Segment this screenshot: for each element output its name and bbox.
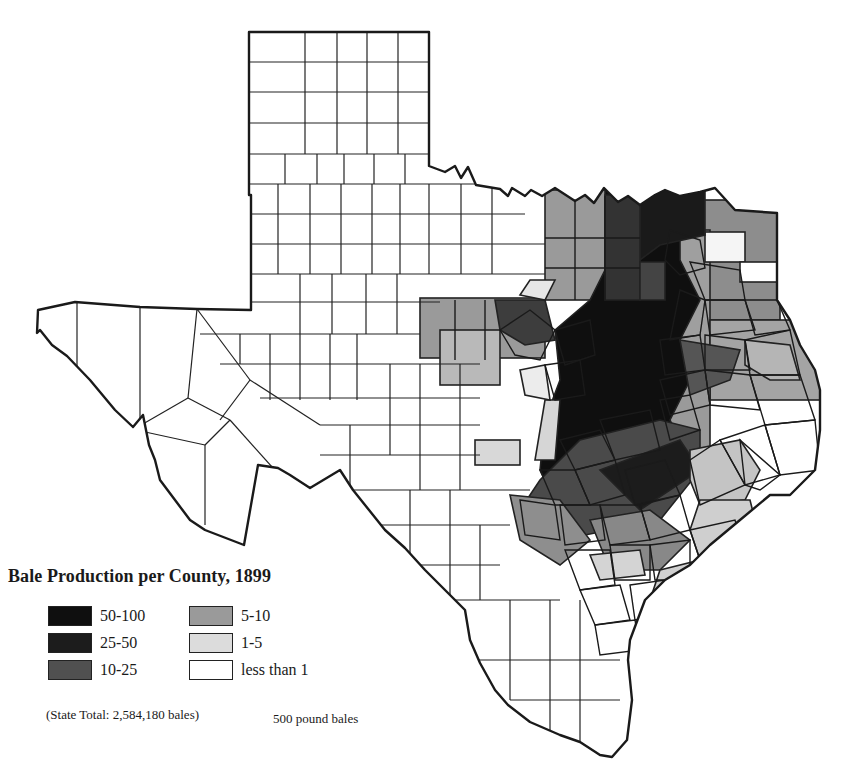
legend: 50-100 25-50 10-25 5-10 1-5 less than 1: [48, 606, 378, 686]
legend-swatch: [189, 660, 233, 680]
legend-label: 25-50: [100, 634, 137, 652]
legend-swatch: [189, 606, 233, 626]
legend-swatch: [189, 633, 233, 653]
legend-item-1-5: 1-5: [189, 633, 262, 653]
legend-label: 5-10: [241, 607, 270, 625]
legend-label: 50-100: [100, 607, 145, 625]
legend-item-10-25: 10-25: [48, 660, 137, 680]
legend-swatch: [48, 633, 92, 653]
unit-note: 500 pound bales: [273, 711, 358, 727]
legend-label: less than 1: [241, 661, 309, 679]
legend-label: 10-25: [100, 661, 137, 679]
legend-swatch: [48, 660, 92, 680]
legend-swatch: [48, 606, 92, 626]
legend-label: 1-5: [241, 634, 262, 652]
legend-item-50-100: 50-100: [48, 606, 145, 626]
map-title: Bale Production per County, 1899: [8, 566, 271, 587]
state-total-note: (State Total: 2,584,180 bales): [46, 707, 199, 723]
legend-item-25-50: 25-50: [48, 633, 137, 653]
legend-item-5-10: 5-10: [189, 606, 270, 626]
legend-item-less-than-1: less than 1: [189, 660, 309, 680]
